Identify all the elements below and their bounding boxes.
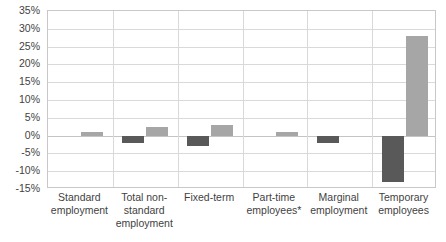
x-axis-category-line: Temporary xyxy=(371,191,436,204)
x-axis-category-label: Temporaryemployees xyxy=(371,191,436,217)
x-axis-category-line: employment xyxy=(112,217,177,230)
y-axis-tick-label: 15% xyxy=(0,76,40,87)
bar xyxy=(317,136,339,143)
x-axis-category-label: Standardemployment xyxy=(47,191,112,217)
y-axis-tick-label: -15% xyxy=(0,183,40,194)
bar-chart: 35%30%25%20%15%10%5%0%-5%-10%-15% Standa… xyxy=(0,0,446,242)
bar xyxy=(382,136,404,182)
x-axis-category-label: Marginalemployment xyxy=(306,191,371,217)
x-axis-category-line: Fixed-term xyxy=(177,191,242,204)
category-separator xyxy=(372,11,373,187)
x-axis-category-line: employment xyxy=(47,204,112,217)
gridline xyxy=(48,47,435,48)
gridline xyxy=(48,118,435,119)
bar xyxy=(406,36,428,136)
category-separator xyxy=(307,11,308,187)
gridline xyxy=(48,100,435,101)
plot-area xyxy=(47,10,436,188)
gridline xyxy=(48,153,435,154)
x-axis-category-label: Fixed-term xyxy=(177,191,242,204)
zero-line xyxy=(48,136,435,137)
x-axis-category-line: Standard xyxy=(47,191,112,204)
y-axis-tick-label: -5% xyxy=(0,147,40,158)
y-axis-tick-label: 10% xyxy=(0,94,40,105)
category-separator xyxy=(178,11,179,187)
y-axis-tick-label: 0% xyxy=(0,129,40,140)
x-axis-category-line: standard xyxy=(112,204,177,217)
y-axis-tick-label: 5% xyxy=(0,112,40,123)
y-axis-tick-label: 20% xyxy=(0,58,40,69)
y-axis-tick-label: 25% xyxy=(0,40,40,51)
bar xyxy=(146,127,168,136)
x-axis-category-line: Marginal xyxy=(306,191,371,204)
gridline xyxy=(48,171,435,172)
category-separator xyxy=(113,11,114,187)
category-separator xyxy=(243,11,244,187)
x-axis: StandardemploymentTotal non-standardempl… xyxy=(47,191,436,239)
bar xyxy=(187,136,209,147)
bar xyxy=(276,132,298,136)
x-axis-category-line: employees* xyxy=(242,204,307,217)
x-axis-category-line: employees xyxy=(371,204,436,217)
gridline xyxy=(48,64,435,65)
x-axis-category-line: Part-time xyxy=(242,191,307,204)
bar xyxy=(122,136,144,143)
x-axis-category-label: Part-timeemployees* xyxy=(242,191,307,217)
gridline xyxy=(48,82,435,83)
x-axis-category-label: Total non-standardemployment xyxy=(112,191,177,229)
x-axis-category-line: employment xyxy=(306,204,371,217)
y-axis-tick-label: -10% xyxy=(0,165,40,176)
y-axis-tick-label: 30% xyxy=(0,23,40,34)
y-axis: 35%30%25%20%15%10%5%0%-5%-10%-15% xyxy=(0,10,44,188)
gridline xyxy=(48,29,435,30)
bar xyxy=(81,132,103,136)
bar xyxy=(211,125,233,136)
x-axis-category-line: Total non- xyxy=(112,191,177,204)
y-axis-tick-label: 35% xyxy=(0,5,40,16)
